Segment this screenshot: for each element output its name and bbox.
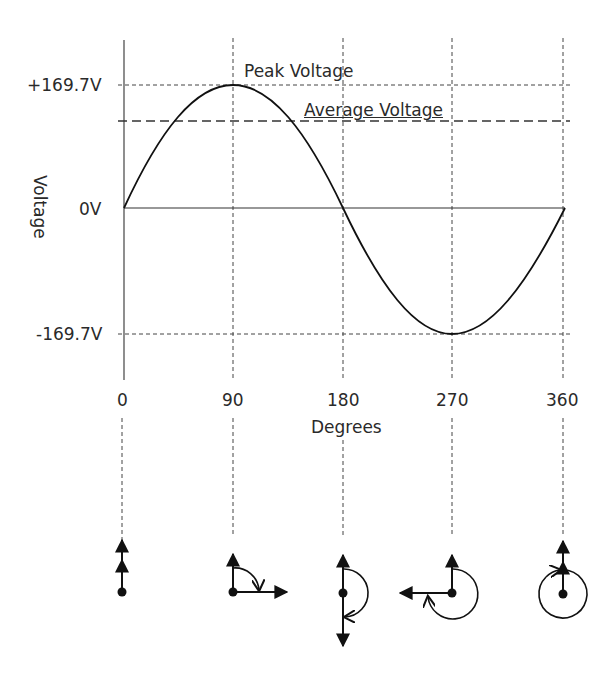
x-tick-180: 180 bbox=[327, 392, 359, 409]
phasor-180 bbox=[339, 555, 369, 646]
y-tick-zero: 0V bbox=[79, 201, 101, 218]
phasor-360 bbox=[539, 541, 587, 618]
phasor-0 bbox=[118, 540, 127, 597]
peak-voltage-label: Peak Voltage bbox=[244, 63, 354, 80]
y-tick-negative: -169.7V bbox=[36, 326, 102, 343]
x-tick-90: 90 bbox=[222, 392, 244, 409]
x-tick-360: 360 bbox=[546, 392, 578, 409]
phasor-270 bbox=[400, 555, 478, 619]
y-tick-positive: +169.7V bbox=[27, 77, 102, 94]
phasor-90 bbox=[229, 554, 288, 597]
average-voltage-label: Average Voltage bbox=[304, 102, 443, 119]
x-tick-270: 270 bbox=[436, 392, 468, 409]
x-tick-0: 0 bbox=[117, 392, 128, 409]
x-axis-label: Degrees bbox=[311, 419, 382, 436]
y-axis-label: Voltage bbox=[31, 175, 48, 239]
sine-curve bbox=[124, 85, 565, 334]
